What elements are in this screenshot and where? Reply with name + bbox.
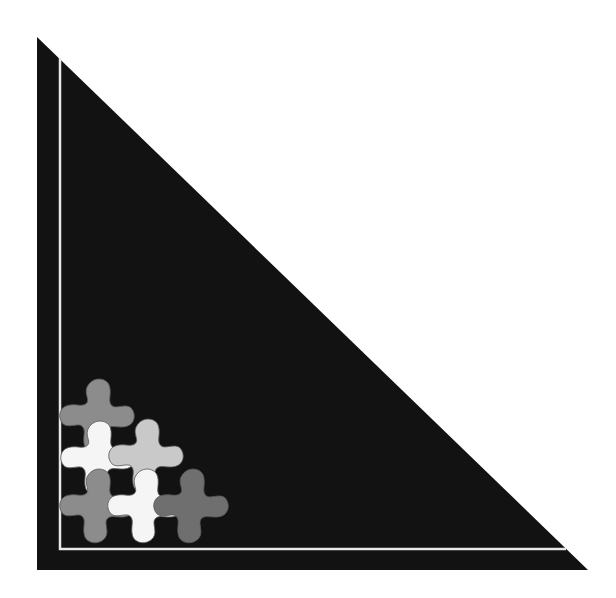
quilt-artwork (0, 0, 616, 598)
black-triangle (37, 37, 588, 570)
